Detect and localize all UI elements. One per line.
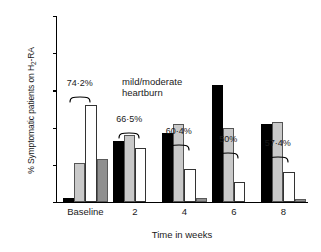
y-axis-title-subscript: 2 [30,62,37,66]
bar-light-gray [124,135,135,202]
annotation-percent: 60·4% [153,126,205,136]
annotation-percent: 66·5% [103,114,155,124]
bar-dark-gray [295,199,306,202]
annotation-brace [217,145,239,163]
bar-dark-gray [97,159,108,202]
y-axis-title-suffix: -RA [26,47,36,61]
bar-black [63,198,74,202]
annotation-brace [267,149,289,167]
bar-series-container [56,16,308,202]
annotation-percent: 74·2% [54,78,106,88]
bar-white [184,169,195,202]
bar-group [113,16,158,202]
annotation-note: mild/moderate heartburn [122,76,182,98]
x-axis-title: Time in weeks [56,229,308,240]
bar-light-gray [74,163,85,202]
annotation-brace [69,89,91,107]
bar-black [113,141,124,202]
annotation-brace [118,125,140,143]
annotation-percent: 57·4% [252,138,304,148]
bar-group [212,16,257,202]
bar-group [162,16,207,202]
bar-white [85,105,96,202]
bar-group [63,16,108,202]
bar-dark-gray [196,198,207,202]
bar-group [261,16,306,202]
x-axis-tick-label: 8 [243,206,321,217]
annotation-percent: 50% [202,134,254,144]
annotation-brace [168,137,190,155]
annotation-note-line1: mild/moderate [122,76,182,87]
bar-chart: % Symptomatic patients on H2-RA 02040608… [0,0,321,252]
bar-white [234,182,245,202]
plot-area: 020406080100 Baseline2468 74·2%66·5%60·4… [56,16,308,202]
bar-white [135,148,146,202]
annotation-note-line2: heartburn [122,87,182,98]
x-axis-line [56,202,308,203]
y-axis-title-prefix: % Symptomatic patients on H [26,65,36,174]
y-axis-tick-mark [53,202,57,203]
y-axis-title: % Symptomatic patients on H2-RA [26,16,37,206]
bar-white [283,172,294,202]
